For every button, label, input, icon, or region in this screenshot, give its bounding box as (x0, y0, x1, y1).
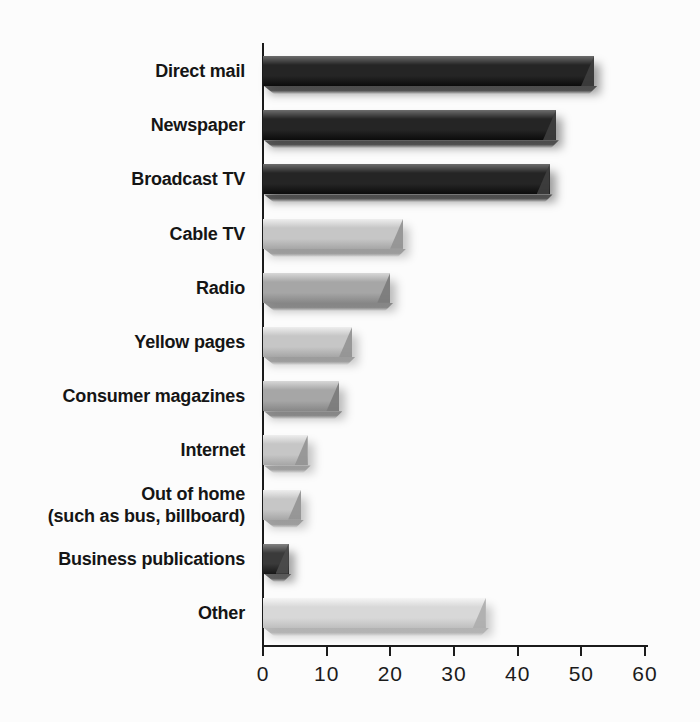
bar-area (253, 487, 700, 525)
x-tick-0 (262, 647, 264, 656)
x-tick-label-60: 60 (623, 662, 667, 686)
chart-row-direct-mail: Direct mail (0, 45, 700, 99)
category-label-newspaper: Newspaper (0, 115, 253, 137)
bar-area (253, 432, 700, 470)
bar-area (253, 107, 700, 145)
chart-row-other: Other (0, 587, 700, 641)
x-tick-label-0: 0 (241, 662, 285, 686)
bar-area (253, 378, 700, 416)
category-label-consumer-magazines: Consumer magazines (0, 386, 253, 408)
bar-area (253, 324, 700, 362)
chart-row-newspaper: Newspaper (0, 99, 700, 153)
chart-row-out-of-home-such-as-bus-billboard: Out of home (such as bus, billboard) (0, 479, 700, 533)
x-tick-30 (453, 647, 455, 656)
x-tick-label-40: 40 (496, 662, 540, 686)
x-tick-60 (644, 647, 646, 656)
bar-area (253, 595, 700, 633)
bar-newspaper (263, 110, 556, 140)
bar-area (253, 216, 700, 254)
bar-area (253, 53, 700, 91)
category-label-business-publications: Business publications (0, 549, 253, 571)
category-label-radio: Radio (0, 278, 253, 300)
bar-business-publications (263, 544, 289, 574)
x-axis-line (262, 645, 648, 647)
bar-consumer-magazines (263, 381, 339, 411)
category-label-out-of-home-such-as-bus-billboard: Out of home (such as bus, billboard) (0, 484, 253, 528)
bar-yellow-pages (263, 327, 352, 357)
bar-other (263, 598, 486, 628)
chart-row-cable-tv: Cable TV (0, 208, 700, 262)
bar-out-of-home-such-as-bus-billboard (263, 490, 301, 520)
bar-cable-tv (263, 219, 403, 249)
x-tick-label-50: 50 (559, 662, 603, 686)
bar-area (253, 270, 700, 308)
bar-chart-figure: Direct mailNewspaperBroadcast TVCable TV… (0, 0, 700, 722)
bar-direct-mail (263, 56, 594, 86)
chart-row-internet: Internet (0, 424, 700, 478)
bar-radio (263, 273, 390, 303)
bar-internet (263, 435, 308, 465)
bar-area (253, 541, 700, 579)
category-label-other: Other (0, 603, 253, 625)
x-tick-label-20: 20 (368, 662, 412, 686)
x-tick-10 (326, 647, 328, 656)
x-tick-label-10: 10 (305, 662, 349, 686)
category-label-yellow-pages: Yellow pages (0, 332, 253, 354)
x-tick-50 (580, 647, 582, 656)
bar-broadcast-tv (263, 164, 550, 194)
x-tick-20 (389, 647, 391, 656)
bar-area (253, 161, 700, 199)
category-label-broadcast-tv: Broadcast TV (0, 169, 253, 191)
chart-row-broadcast-tv: Broadcast TV (0, 153, 700, 207)
category-label-cable-tv: Cable TV (0, 224, 253, 246)
x-tick-label-30: 30 (432, 662, 476, 686)
chart-row-radio: Radio (0, 262, 700, 316)
chart-row-consumer-magazines: Consumer magazines (0, 370, 700, 424)
category-label-direct-mail: Direct mail (0, 61, 253, 83)
x-tick-40 (517, 647, 519, 656)
plot-area: Direct mailNewspaperBroadcast TVCable TV… (0, 0, 700, 722)
category-label-internet: Internet (0, 440, 253, 462)
bar-rows: Direct mailNewspaperBroadcast TVCable TV… (0, 45, 700, 641)
chart-row-yellow-pages: Yellow pages (0, 316, 700, 370)
chart-row-business-publications: Business publications (0, 533, 700, 587)
